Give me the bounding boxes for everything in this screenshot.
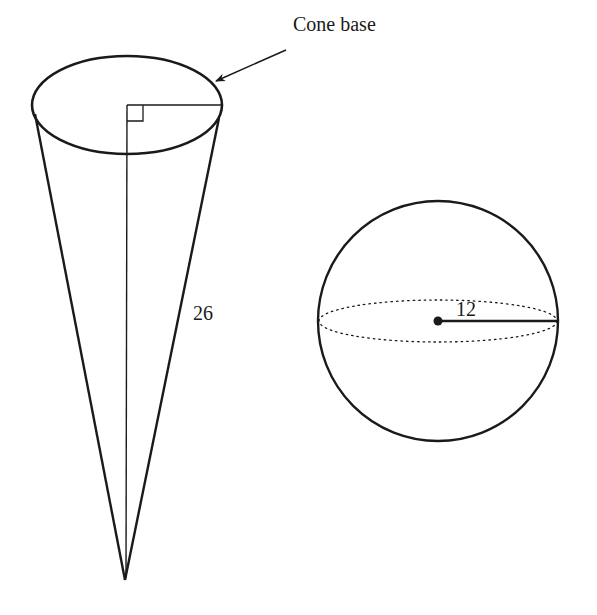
slant-height-label: 26	[193, 302, 213, 324]
sphere: 12	[318, 201, 558, 441]
cone-right-slant-side	[125, 118, 219, 580]
cone-left-slant-side	[35, 114, 125, 580]
cone-base-callout: Cone base	[216, 13, 376, 81]
right-angle-marker-icon	[127, 105, 143, 121]
sphere-center-dot-icon	[434, 317, 443, 326]
diagram-canvas: 26 Cone base 12	[0, 0, 597, 615]
callout-arrow-icon	[216, 50, 286, 81]
cone-base-label: Cone base	[293, 13, 376, 35]
cone-height-axis	[126, 105, 127, 578]
cone: 26	[32, 56, 222, 580]
sphere-radius-label: 12	[456, 298, 476, 320]
